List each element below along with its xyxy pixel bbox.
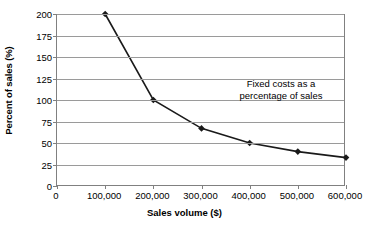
y-axis-tick-label: 25	[12, 159, 52, 170]
data-point-marker	[295, 148, 302, 155]
x-axis-title: Sales volume ($)	[0, 207, 369, 218]
y-axis-tick-label: 100	[12, 95, 52, 106]
y-axis-tick-label: 175	[12, 30, 52, 41]
x-axis-tick-label: 300,000	[183, 190, 217, 201]
x-axis-tick-mark	[346, 185, 347, 189]
y-axis-tick-mark	[53, 143, 57, 144]
x-axis-tick-mark	[57, 185, 58, 189]
y-axis-tick-mark	[53, 100, 57, 101]
x-axis-tick-label: 600,000	[328, 190, 362, 201]
y-axis-tick-label: 125	[12, 73, 52, 84]
y-axis-tick-mark	[53, 14, 57, 15]
y-axis-tick-mark	[53, 79, 57, 80]
data-point-marker	[198, 125, 205, 132]
x-axis-title-label: Sales volume ($)	[147, 207, 222, 218]
x-axis-tick-mark	[298, 185, 299, 189]
x-axis-tick-mark	[105, 185, 106, 189]
x-axis-tick-label: 100,000	[87, 190, 121, 201]
y-axis-tick-label: 75	[12, 116, 52, 127]
y-axis-tick-label: 50	[12, 138, 52, 149]
gridline-horizontal	[57, 122, 344, 123]
annotation-line: Fixed costs as a	[222, 78, 340, 90]
x-axis-tick-label: 0	[53, 190, 58, 201]
data-point-marker	[343, 154, 350, 161]
x-axis-tick-label: 400,000	[231, 190, 265, 201]
y-axis-tick-label: 200	[12, 9, 52, 20]
gridline-horizontal	[57, 14, 344, 15]
y-axis-tick-mark	[53, 36, 57, 37]
y-axis-tick-mark	[53, 165, 57, 166]
x-axis-tick-labels: 0100,000200,000300,000400,000500,000600,…	[0, 190, 369, 204]
gridline-horizontal	[57, 36, 344, 37]
annotation-line: percentage of sales	[222, 90, 340, 102]
x-axis-tick-mark	[202, 185, 203, 189]
x-axis-tick-label: 500,000	[280, 190, 314, 201]
chart-annotation: Fixed costs as apercentage of sales	[222, 78, 340, 102]
x-axis-tick-mark	[250, 185, 251, 189]
chart-screenshot: Percent of sales (%) 0255075100125150175…	[0, 0, 369, 228]
y-axis-tick-mark	[53, 122, 57, 123]
y-axis-tick-mark	[53, 57, 57, 58]
gridline-horizontal	[57, 165, 344, 166]
gridline-horizontal	[57, 57, 344, 58]
x-axis-tick-mark	[153, 185, 154, 189]
x-axis-tick-label: 200,000	[135, 190, 169, 201]
y-axis-tick-label: 150	[12, 52, 52, 63]
gridline-horizontal	[57, 143, 344, 144]
